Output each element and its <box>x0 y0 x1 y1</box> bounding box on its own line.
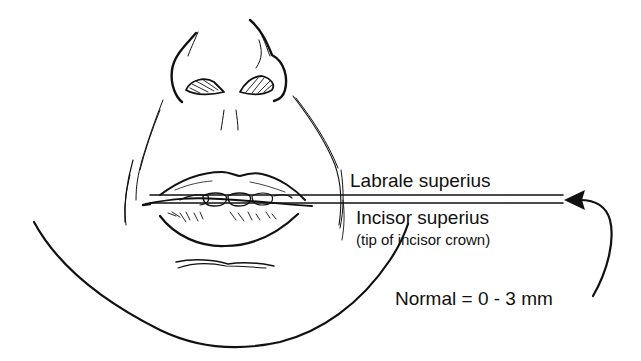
mouth <box>143 172 312 246</box>
measurement-arrow <box>580 200 612 296</box>
left-cheek-line <box>125 100 163 225</box>
jaw-outline <box>34 222 408 347</box>
chin-crease <box>176 260 274 268</box>
left-nostril <box>186 79 224 94</box>
lower-lip-shading <box>168 212 276 222</box>
nose <box>172 20 286 130</box>
label-normal-range: Normal = 0 - 3 mm <box>395 289 553 308</box>
arrowhead-icon <box>564 190 585 210</box>
label-incisor-superius: Incisor superius <box>356 208 489 227</box>
right-nostril <box>240 76 273 94</box>
right-cheek-line <box>293 96 344 240</box>
label-labrale-superius: Labrale superius <box>350 171 490 190</box>
label-incisor-note: (tip of incisor crown) <box>356 232 490 247</box>
